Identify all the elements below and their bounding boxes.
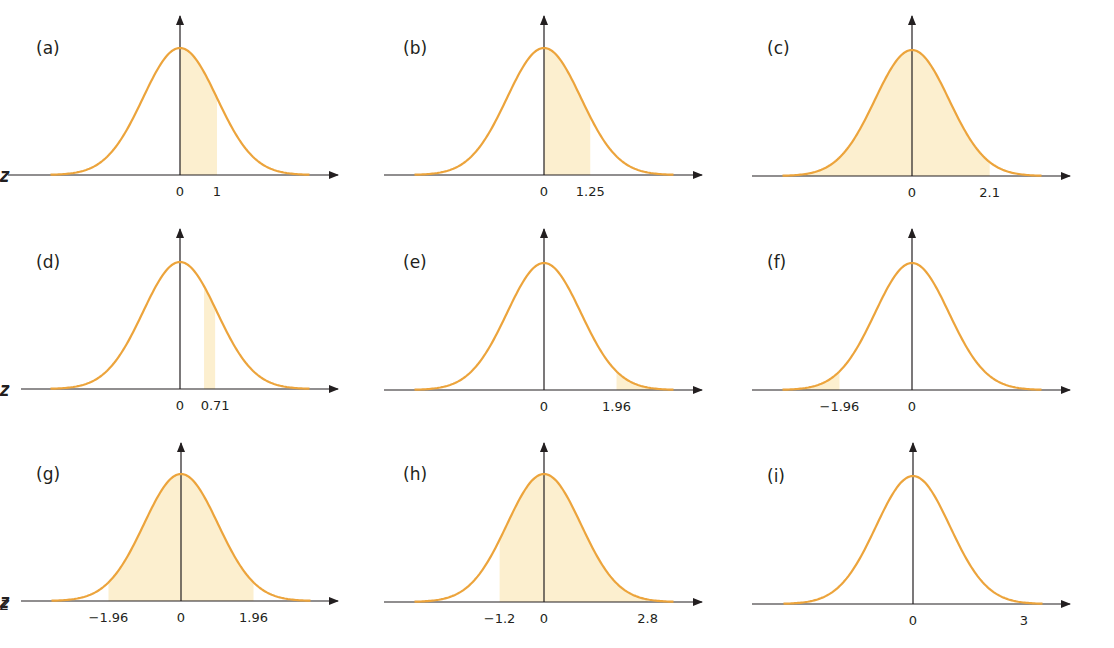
shaded-region: [544, 48, 590, 175]
normal-curves-figure: (a)z01(b)z01.25(c)z02.1(d)z00.71(e)z01.9…: [0, 0, 1114, 648]
tick-label: 3: [1020, 613, 1028, 628]
panel-label: (b): [403, 38, 427, 58]
tick-label: 2.8: [637, 611, 658, 626]
tick-label: −1.96: [820, 399, 860, 414]
panel-label: (f): [767, 252, 786, 272]
tick-label: 1: [213, 184, 221, 199]
shaded-region: [204, 286, 215, 389]
tick-label: 0: [176, 184, 184, 199]
panel-b: (b)z01.25: [0, 16, 702, 199]
panel-label: (h): [403, 464, 427, 484]
tick-label: 1.96: [602, 399, 631, 414]
panel-label: (g): [36, 464, 60, 484]
panel-label: (a): [36, 38, 60, 58]
tick-label: 0: [540, 399, 548, 414]
tick-label: −1.2: [484, 611, 516, 626]
z-axis-label: z: [0, 166, 10, 186]
tick-label: 0: [176, 398, 184, 413]
tick-label: 2.1: [979, 185, 1000, 200]
z-axis-label: z: [0, 594, 10, 614]
tick-label: 0: [540, 184, 548, 199]
panel-label: (c): [767, 38, 790, 58]
panel-d: (d)z00.71: [0, 229, 338, 413]
panel-h: (h)z−1.202.8: [0, 443, 702, 626]
panel-label: (i): [767, 466, 785, 486]
shaded-region: [180, 48, 217, 175]
tick-label: 0.71: [201, 398, 230, 413]
panel-g: (g)z−1.9601.96: [0, 443, 338, 625]
tick-label: 0: [909, 613, 917, 628]
tick-label: 1.25: [576, 184, 605, 199]
tick-label: −1.96: [89, 610, 129, 625]
tick-label: 1.96: [239, 610, 268, 625]
z-axis-label: z: [0, 380, 10, 400]
tick-label: 0: [908, 399, 916, 414]
shaded-region: [783, 50, 990, 176]
tick-label: 0: [177, 610, 185, 625]
panel-c: (c)z02.1: [0, 16, 1070, 200]
panel-e: (e)z01.96: [0, 229, 702, 414]
tick-label: 0: [540, 611, 548, 626]
tick-label: 0: [908, 185, 916, 200]
panel-a: (a)z01: [0, 16, 338, 199]
panel-f: (f)z−1.960: [0, 229, 1070, 414]
panel-label: (e): [403, 252, 427, 272]
panels-grid: (a)z01(b)z01.25(c)z02.1(d)z00.71(e)z01.9…: [0, 16, 1070, 628]
panel-label: (d): [36, 252, 60, 272]
